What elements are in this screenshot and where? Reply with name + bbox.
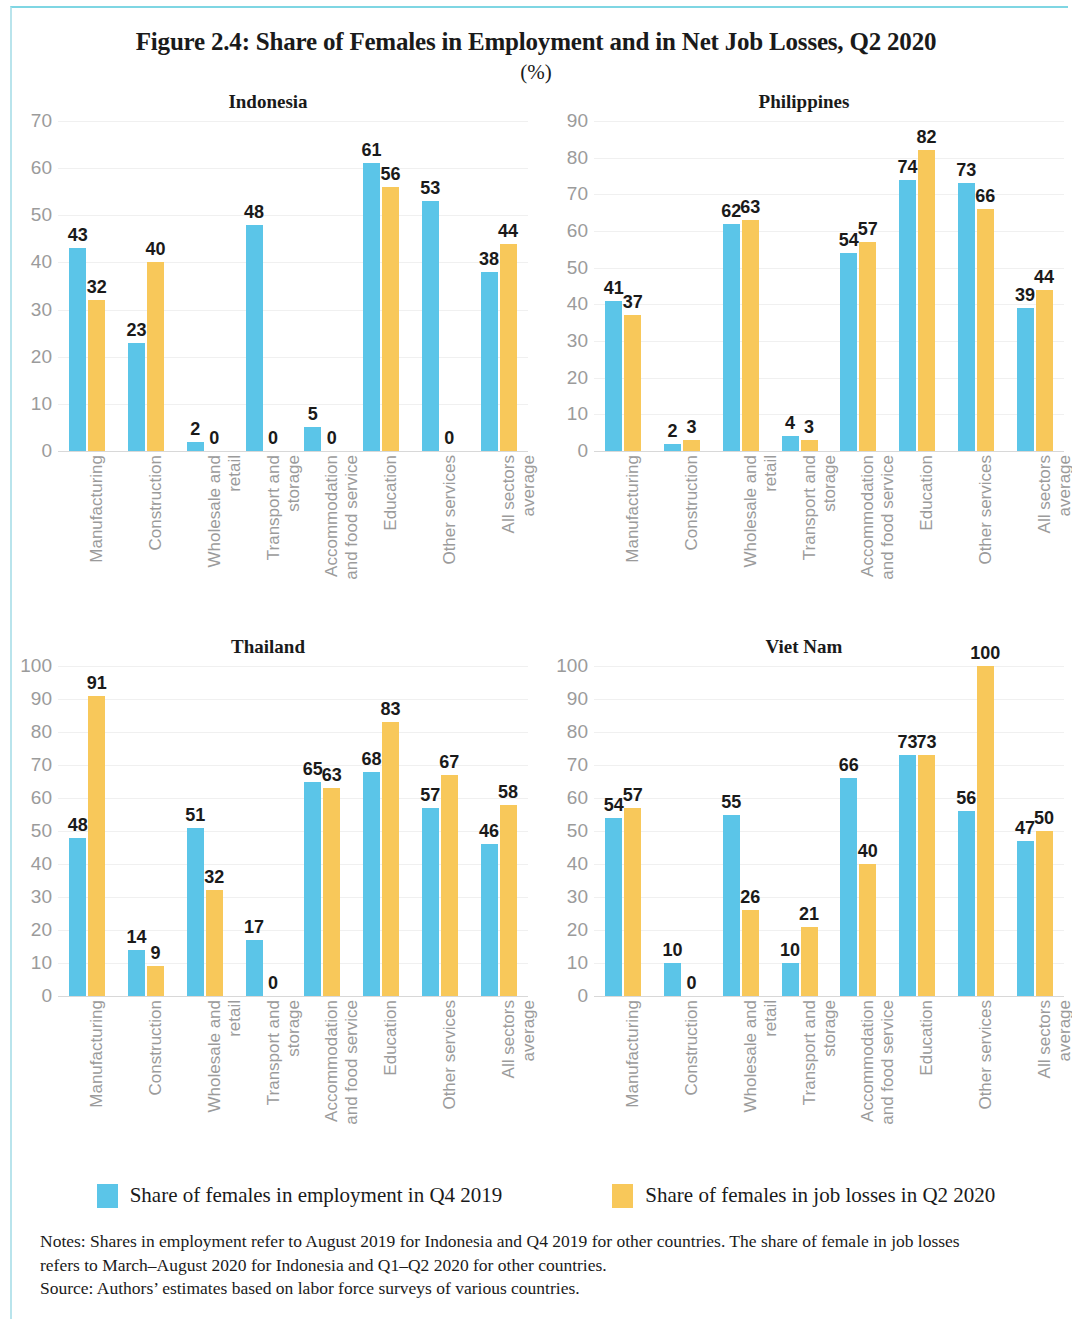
bar[interactable] xyxy=(782,963,799,996)
x-tick: Accommodationand food service xyxy=(829,451,888,626)
legend-item[interactable]: Share of females in job losses in Q2 202… xyxy=(612,1183,995,1208)
bar[interactable] xyxy=(481,272,498,451)
bar[interactable] xyxy=(977,666,994,996)
bar[interactable] xyxy=(801,927,818,996)
bar-slot: 73 xyxy=(918,666,935,996)
bar[interactable] xyxy=(723,224,740,451)
y-tick-label: 50 xyxy=(567,820,588,842)
bar-slot: 66 xyxy=(840,666,857,996)
bar[interactable] xyxy=(128,343,145,451)
legend-label: Share of females in job losses in Q2 202… xyxy=(645,1183,995,1208)
bar[interactable] xyxy=(382,722,399,996)
bar[interactable] xyxy=(605,301,622,451)
chart-panel-thailand: Thailand01020304050607080901004891149513… xyxy=(0,636,536,1181)
x-tick: Accommodationand food service xyxy=(829,996,888,1171)
x-tick-label-line1: Construction xyxy=(146,455,165,550)
bar-group: 5457 xyxy=(594,666,653,996)
bar[interactable] xyxy=(958,811,975,996)
bar[interactable] xyxy=(782,436,799,451)
x-tick: Construction xyxy=(653,996,712,1171)
bar-slot: 5 xyxy=(304,121,321,451)
x-tick-label-line1: Construction xyxy=(682,1000,701,1095)
bar[interactable] xyxy=(742,220,759,451)
bar[interactable] xyxy=(664,444,681,451)
bar[interactable] xyxy=(605,818,622,996)
x-tick-label: Manufacturing xyxy=(87,1000,107,1108)
bar[interactable] xyxy=(899,180,916,451)
bar-value-label: 74 xyxy=(898,157,918,178)
bar[interactable] xyxy=(69,248,86,451)
bar[interactable] xyxy=(422,808,439,996)
x-tick-label: Education xyxy=(381,1000,401,1076)
x-tick: Transport andstorage xyxy=(770,996,829,1171)
bar[interactable] xyxy=(382,187,399,451)
bar[interactable] xyxy=(422,201,439,451)
bar-value-label: 91 xyxy=(87,673,107,694)
y-tick-label: 90 xyxy=(31,688,52,710)
bar[interactable] xyxy=(1017,841,1034,996)
bar[interactable] xyxy=(1036,290,1053,451)
bar-slot: 4 xyxy=(782,121,799,451)
bar[interactable] xyxy=(918,755,935,996)
bar[interactable] xyxy=(1017,308,1034,451)
y-tick-label: 20 xyxy=(567,919,588,941)
bar-slot: 66 xyxy=(977,121,994,451)
y-tick-label: 30 xyxy=(567,886,588,908)
bar[interactable] xyxy=(481,844,498,996)
bar[interactable] xyxy=(624,808,641,996)
bar[interactable] xyxy=(441,775,458,996)
bar-value-label: 23 xyxy=(127,320,147,341)
bar[interactable] xyxy=(1036,831,1053,996)
bar-slot: 57 xyxy=(624,666,641,996)
bar[interactable] xyxy=(683,440,700,451)
bar[interactable] xyxy=(624,315,641,451)
bar[interactable] xyxy=(246,940,263,996)
bar[interactable] xyxy=(958,183,975,451)
bar-value-label: 10 xyxy=(663,940,683,961)
bar[interactable] xyxy=(187,828,204,996)
bar[interactable] xyxy=(742,910,759,996)
bar[interactable] xyxy=(128,950,145,996)
bar[interactable] xyxy=(304,427,321,451)
bar[interactable] xyxy=(918,150,935,451)
y-tick-label: 30 xyxy=(31,886,52,908)
y-tick-label: 90 xyxy=(567,688,588,710)
x-tick-label-line1: Construction xyxy=(146,1000,165,1095)
bar[interactable] xyxy=(323,788,340,996)
bar[interactable] xyxy=(859,864,876,996)
bar[interactable] xyxy=(147,262,164,451)
bar-value-label: 58 xyxy=(498,782,518,803)
y-tick-label: 20 xyxy=(567,367,588,389)
bar[interactable] xyxy=(88,696,105,996)
bar-group: 7373 xyxy=(888,666,947,996)
bar[interactable] xyxy=(206,890,223,996)
bar[interactable] xyxy=(899,755,916,996)
bar[interactable] xyxy=(363,163,380,451)
bar[interactable] xyxy=(88,300,105,451)
x-tick-label-line1: All sectors xyxy=(1035,1000,1054,1078)
bar[interactable] xyxy=(840,778,857,996)
bar-value-label: 44 xyxy=(1034,267,1054,288)
bar[interactable] xyxy=(69,838,86,996)
bar[interactable] xyxy=(977,209,994,451)
bar-slot: 40 xyxy=(147,121,164,451)
bar[interactable] xyxy=(840,253,857,451)
panel-title: Indonesia xyxy=(0,91,536,113)
bar[interactable] xyxy=(304,782,321,997)
bar[interactable] xyxy=(147,966,164,996)
bar[interactable] xyxy=(801,440,818,451)
bar-group: 4658 xyxy=(469,666,528,996)
legend-item[interactable]: Share of females in employment in Q4 201… xyxy=(97,1183,503,1208)
bar[interactable] xyxy=(859,242,876,451)
bar[interactable] xyxy=(500,805,517,996)
bar-value-label: 47 xyxy=(1015,818,1035,839)
x-tick-label-line1: Transport and xyxy=(264,1000,283,1105)
bar[interactable] xyxy=(187,442,204,451)
bar[interactable] xyxy=(363,772,380,996)
bar[interactable] xyxy=(246,225,263,451)
plot-area: 0102030405060708090100489114951321706563… xyxy=(58,666,528,996)
bar[interactable] xyxy=(500,244,517,451)
bar[interactable] xyxy=(723,815,740,997)
bar[interactable] xyxy=(664,963,681,996)
bar-group: 6640 xyxy=(829,666,888,996)
